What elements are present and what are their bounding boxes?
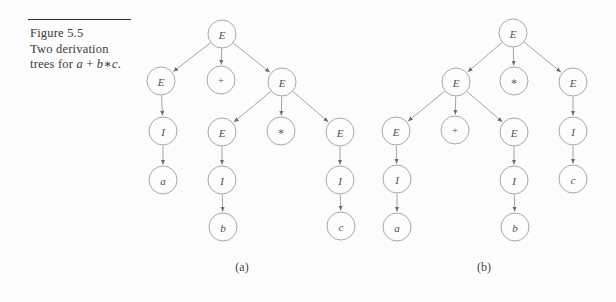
tree-node-b: b — [209, 213, 237, 241]
tree-node-E: E — [559, 68, 587, 96]
tree-node-E: E — [382, 117, 410, 145]
tree-node-label: E — [452, 77, 460, 89]
tree-node-a: a — [149, 166, 177, 194]
tree-edge-arrow — [234, 91, 271, 122]
tree-node-I: I — [383, 165, 411, 193]
tree-edge-arrow — [468, 43, 502, 72]
tree-node-E: E — [268, 68, 296, 96]
tree-node-E: E — [326, 118, 354, 146]
tree-node-label: + — [218, 75, 224, 86]
tree-node-+: + — [207, 66, 235, 94]
tree-node-I: I — [500, 166, 528, 194]
tree-node-label: b — [220, 222, 226, 234]
tree-node-label: E — [509, 28, 517, 40]
tree-node-label: E — [278, 77, 286, 89]
figure-page: Figure 5.5 Two derivation trees for a + … — [0, 0, 616, 302]
tree-node-label: ∗ — [510, 76, 517, 87]
tree-node-a: a — [383, 213, 411, 241]
tree-node-+: + — [441, 116, 469, 144]
tree-node-label: E — [218, 127, 226, 139]
tree-node-label: a — [394, 222, 400, 234]
tree-node-I: I — [208, 166, 236, 194]
tree-node-label: E — [218, 29, 226, 41]
tree-node-∗: ∗ — [267, 117, 295, 145]
tree-sublabel-b: (b) — [477, 260, 491, 274]
tree-edge-arrow — [408, 91, 445, 121]
tree-node-E: E — [499, 19, 527, 47]
tree-node-label: E — [336, 127, 344, 139]
tree-edge-arrow — [173, 43, 210, 72]
tree-node-I: I — [559, 117, 587, 145]
tree-node-label: + — [452, 125, 458, 136]
tree-node-label: ∗ — [277, 126, 284, 137]
tree-edge-arrow — [162, 96, 163, 116]
tree-node-c: c — [559, 165, 587, 193]
tree-node-label: E — [510, 127, 518, 139]
tree-node-label: c — [339, 221, 344, 233]
tree-node-label: b — [512, 222, 518, 234]
derivation-tree-b: EE∗EE+EIIIcab(b) — [382, 19, 587, 274]
derivation-trees-svg: EE+EIE∗EaIIbc(a)EE∗EE+EIIIcab(b) — [0, 0, 616, 302]
tree-node-∗: ∗ — [500, 67, 528, 95]
tree-edge-arrow — [293, 92, 328, 122]
tree-node-E: E — [500, 118, 528, 146]
tree-node-I: I — [149, 117, 177, 145]
tree-node-E: E — [208, 118, 236, 146]
tree-node-E: E — [208, 20, 236, 48]
tree-node-label: E — [392, 126, 400, 138]
tree-node-E: E — [442, 68, 470, 96]
tree-node-E: E — [147, 67, 175, 95]
tree-node-label: a — [160, 175, 166, 187]
tree-node-label: E — [157, 76, 165, 88]
tree-node-label: E — [569, 77, 577, 89]
derivation-tree-a: EE+EIE∗EaIIbc(a) — [147, 20, 355, 274]
tree-node-c: c — [327, 212, 355, 240]
tree-edge-arrow — [233, 43, 270, 72]
tree-node-label: c — [571, 174, 576, 186]
tree-edge-arrow — [467, 92, 502, 122]
tree-sublabel-a: (a) — [235, 260, 248, 274]
tree-node-I: I — [326, 166, 354, 194]
tree-node-b: b — [501, 213, 529, 241]
tree-edge-arrow — [524, 42, 561, 72]
